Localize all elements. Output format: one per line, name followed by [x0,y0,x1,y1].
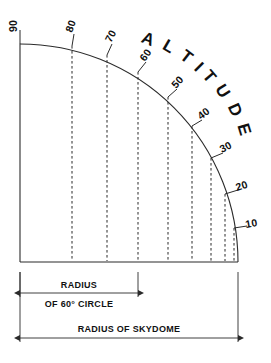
altitude-title: A L T I T U D E [139,28,255,138]
tick-mark-80 [72,34,74,46]
tick-label-50: 50 [169,73,186,90]
tick-label-20: 20 [234,178,249,193]
gradation-30: 30 [211,138,234,261]
dimension-label-60-line2: OF 60° CIRCLE [45,299,114,309]
gradation-50: 50 [168,73,186,261]
altitude-letter-1: L [160,35,178,57]
altitude-letter-6: D [224,100,246,119]
dimension-label-skydome: RADIUS OF SKYDOME [78,324,181,334]
tick-label-90: 90 [7,20,19,32]
gradation-90: 90 [7,20,20,43]
altitude-letter-5: U [211,81,234,101]
altitude-letter-4: T [199,66,221,87]
skydome-diagram: 90 80 70 60 [0,0,271,363]
diagram-canvas: 90 80 70 60 [0,0,271,363]
gradation-70: 70 [102,28,118,261]
gradation-80: 80 [63,18,78,261]
dimension-label-60-line1: RADIUS [61,280,97,290]
tick-mark-70 [107,44,112,55]
tick-label-60: 60 [137,46,154,63]
altitude-letter-2: T [176,46,196,68]
tick-mark-50 [168,89,177,97]
tick-label-80: 80 [63,18,78,33]
tick-label-40: 40 [195,105,212,122]
altitude-letter-7: E [234,121,255,137]
gradation-40: 40 [192,105,212,261]
tick-label-70: 70 [102,28,118,44]
dimension-radius-60-circle: RADIUS OF 60° CIRCLE [20,272,138,309]
tick-mark-60 [138,62,146,72]
gradation-60: 60 [137,46,154,261]
tick-label-10: 10 [244,216,258,230]
tick-label-30: 30 [217,138,233,154]
tick-mark-30 [211,153,223,158]
altitude-gradations: 90 80 70 60 [7,18,258,261]
altitude-letter-0: A [139,28,158,50]
